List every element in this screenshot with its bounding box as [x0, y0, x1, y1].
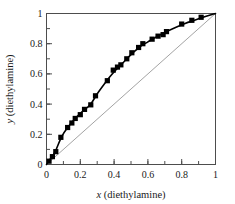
y-tick-label: 0.4 — [30, 99, 43, 110]
data-point-marker — [50, 154, 55, 159]
data-point-marker — [78, 112, 83, 117]
x-axis-title: x (diethylamine) — [95, 189, 166, 201]
x-axis-minor-ticks — [47, 161, 216, 165]
y-tick-label: 0 — [38, 159, 43, 170]
y-tick-label: 0.6 — [30, 68, 43, 79]
data-point-marker — [88, 102, 93, 107]
data-point-marker — [155, 34, 160, 39]
y-axis-tick-labels: 00.20.40.60.81 — [30, 8, 43, 170]
x-tick-label: 0.6 — [142, 169, 155, 180]
data-point-marker — [53, 149, 58, 154]
data-point-marker — [58, 135, 63, 140]
data-point-marker — [199, 15, 204, 20]
data-point-marker — [46, 159, 51, 164]
vle-equilibrium-chart: 00.20.40.60.81 00.20.40.60.81 x (diethyl… — [0, 0, 235, 204]
data-point-marker — [93, 93, 98, 98]
data-point-marker — [118, 62, 123, 67]
y-tick-label: 0.2 — [30, 129, 43, 140]
data-point-marker — [69, 120, 74, 125]
data-point-marker — [105, 78, 110, 83]
data-point-marker — [65, 125, 70, 130]
data-point-marker — [124, 56, 129, 61]
data-point-markers — [46, 15, 203, 164]
data-point-marker — [140, 41, 145, 46]
data-point-marker — [82, 107, 87, 112]
diagonal-reference-line — [47, 14, 216, 165]
x-tick-label: 0.4 — [108, 169, 121, 180]
y-tick-label: 1 — [38, 8, 43, 19]
data-point-marker — [129, 50, 134, 55]
x-tick-label: 1 — [213, 169, 218, 180]
data-point-marker — [164, 29, 169, 34]
data-point-marker — [150, 37, 155, 42]
data-point-marker — [179, 21, 184, 26]
x-tick-label: 0.2 — [74, 169, 87, 180]
y-axis-title: y (diethylamine) — [4, 54, 16, 125]
y-tick-label: 0.8 — [30, 38, 43, 49]
x-tick-label: 0 — [44, 169, 49, 180]
data-point-marker — [189, 18, 194, 23]
data-point-marker — [73, 116, 78, 121]
y-axis-minor-ticks — [47, 14, 51, 165]
x-tick-label: 0.8 — [175, 169, 188, 180]
x-axis-tick-labels: 00.20.40.60.81 — [44, 169, 218, 180]
plot-svg: 00.20.40.60.81 00.20.40.60.81 x (diethyl… — [0, 0, 235, 204]
